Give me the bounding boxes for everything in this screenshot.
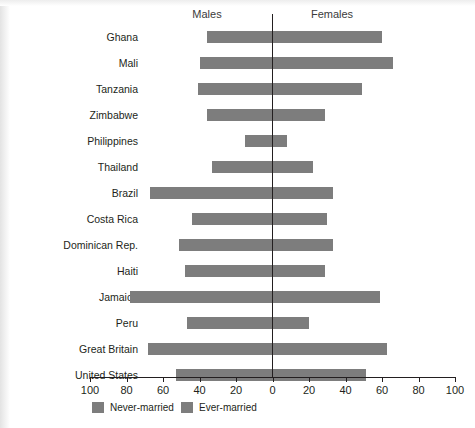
axis-tick-label: 100 xyxy=(70,384,110,396)
axis-tick xyxy=(273,377,274,382)
axis-tick xyxy=(346,377,347,382)
axis-tick xyxy=(236,377,237,382)
axis-tick xyxy=(419,377,420,382)
bar-united-states xyxy=(176,369,366,381)
bar-brazil xyxy=(150,187,333,199)
bar-costa-rica xyxy=(192,213,327,225)
legend-label-ever-married: Ever-married xyxy=(199,402,257,413)
axis-tick-label: 80 xyxy=(399,384,439,396)
bar-zimbabwe xyxy=(207,109,326,121)
legend-swatch-never-married xyxy=(92,402,104,413)
zero-axis-line xyxy=(272,14,273,377)
axis-tick-label: 20 xyxy=(216,384,256,396)
axis-tick-label: 100 xyxy=(435,384,475,396)
axis-tick xyxy=(90,377,91,382)
axis-tick xyxy=(455,377,456,382)
bar-dominican-rep xyxy=(179,239,332,251)
bar-thailand xyxy=(212,161,312,173)
axis-tick-label: 40 xyxy=(180,384,220,396)
axis-tick xyxy=(200,377,201,382)
axis-tick xyxy=(382,377,383,382)
axis-tick xyxy=(309,377,310,382)
bar-tanzania xyxy=(198,83,362,95)
bar-great-britain xyxy=(148,343,387,355)
legend-swatch-ever-married xyxy=(181,402,193,413)
axis-tick-label: 60 xyxy=(362,384,402,396)
chart-legend: Never-married Ever-married xyxy=(0,400,475,420)
plot-area xyxy=(0,0,475,428)
axis-tick-label: 0 xyxy=(253,384,293,396)
population-pyramid-chart: Males Females GhanaMaliTanzaniaZimbabweP… xyxy=(0,0,475,428)
bar-haiti xyxy=(185,265,326,277)
axis-tick xyxy=(127,377,128,382)
bar-peru xyxy=(187,317,309,329)
bar-philippines xyxy=(245,135,287,147)
bar-jamaica xyxy=(130,291,380,303)
axis-tick-label: 40 xyxy=(326,384,366,396)
axis-tick-label: 20 xyxy=(289,384,329,396)
bar-mali xyxy=(200,57,393,69)
bar-ghana xyxy=(207,31,382,43)
axis-tick-label: 60 xyxy=(143,384,183,396)
legend-label-never-married: Never-married xyxy=(110,402,174,413)
axis-tick xyxy=(163,377,164,382)
axis-tick-label: 80 xyxy=(107,384,147,396)
